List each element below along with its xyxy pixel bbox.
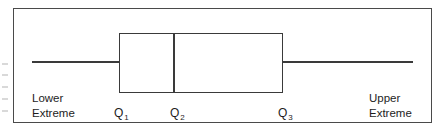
upper-extreme-label-line1: Upper <box>369 92 400 104</box>
median-line-q2 <box>173 33 175 93</box>
scan-artifact <box>2 74 8 76</box>
box-plot-figure: LowerExtreme UpperExtreme Q1 Q2 Q3 <box>0 0 447 132</box>
figure-border: LowerExtreme UpperExtreme Q1 Q2 Q3 <box>13 8 432 123</box>
scan-artifact <box>2 98 8 100</box>
interquartile-range-box <box>119 33 283 93</box>
upper-whisker-line <box>282 61 413 63</box>
q3-label: Q3 <box>278 106 292 120</box>
q1-label: Q1 <box>114 106 128 120</box>
q3-label-subscript: 3 <box>288 113 292 122</box>
lower-extreme-label-line1: Lower <box>32 92 63 104</box>
q1-label-letter: Q <box>114 106 123 120</box>
lower-extreme-label: LowerExtreme <box>32 91 75 120</box>
q2-label: Q2 <box>170 106 184 120</box>
q2-label-letter: Q <box>170 106 179 120</box>
q3-label-letter: Q <box>278 106 287 120</box>
q1-label-subscript: 1 <box>124 113 128 122</box>
scan-artifact <box>2 110 8 112</box>
upper-extreme-label: UpperExtreme <box>369 91 412 120</box>
lower-extreme-label-line2: Extreme <box>32 107 75 119</box>
upper-extreme-label-line2: Extreme <box>369 107 412 119</box>
scan-artifact <box>2 86 8 88</box>
q2-label-subscript: 2 <box>180 113 184 122</box>
lower-whisker-line <box>32 61 120 63</box>
scan-artifact <box>2 63 8 65</box>
